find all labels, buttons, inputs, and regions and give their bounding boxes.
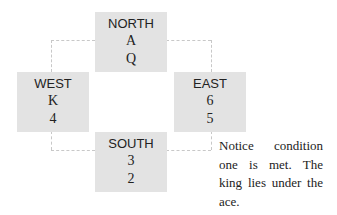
north-card-2: Q (95, 50, 167, 68)
connector-top-right (166, 40, 211, 41)
north-hand: NORTH A Q (95, 12, 167, 72)
connector-top-left (51, 40, 95, 41)
connector-left-lower (51, 131, 52, 150)
explanation-note: Notice condition one is met. The king li… (219, 137, 323, 211)
east-hand: EAST 6 5 (174, 72, 246, 132)
connector-bottom-right (166, 150, 211, 151)
west-label: WEST (17, 76, 89, 92)
south-card-2: 2 (95, 170, 167, 188)
east-card-2: 5 (174, 110, 246, 128)
north-card-1: A (95, 32, 167, 50)
west-card-2: 4 (17, 110, 89, 128)
connector-right-lower (211, 131, 212, 150)
south-hand: SOUTH 3 2 (95, 132, 167, 192)
east-card-1: 6 (174, 92, 246, 110)
south-label: SOUTH (95, 136, 167, 152)
bridge-deal-diagram: NORTH A Q WEST K 4 EAST 6 5 SOUTH 3 2 No… (0, 0, 337, 215)
west-card-1: K (17, 92, 89, 110)
south-card-1: 3 (95, 152, 167, 170)
west-hand: WEST K 4 (17, 72, 89, 132)
east-label: EAST (174, 76, 246, 92)
connector-bottom-left (51, 150, 95, 151)
connector-right-upper (211, 40, 212, 72)
north-label: NORTH (95, 16, 167, 32)
connector-left-upper (51, 40, 52, 72)
